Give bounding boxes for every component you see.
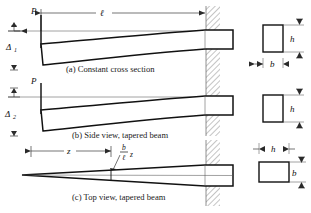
caption-a: (a) Constant cross section	[66, 64, 155, 74]
caption-c: (c) Top view, tapered beam	[72, 192, 166, 202]
deflection-label-a: Δ	[5, 42, 11, 52]
length-label: ℓ	[100, 8, 104, 18]
cross-section-b-height-label: h	[290, 104, 295, 114]
cross-section-a-height-label: h	[290, 34, 295, 44]
cross-section-c-width-label: h	[271, 144, 276, 154]
formula-numerator: b	[122, 143, 126, 152]
load-label-b: P	[30, 76, 37, 86]
cross-section-c-height-label: b	[292, 168, 297, 178]
caption-b: (b) Side view, tapered beam	[72, 130, 168, 140]
deflection-sub-b: 2	[13, 114, 16, 120]
cross-section-b-rect	[263, 95, 283, 122]
deflection-label-b: Δ	[4, 109, 10, 119]
cross-section-c-rect	[259, 162, 289, 182]
formula-multiplier: z	[129, 150, 133, 159]
distance-label-c: z	[66, 146, 71, 156]
load-label-a: P	[30, 6, 37, 16]
engineering-figure: ℓ P Δ 1 (a) Constant cross section	[0, 0, 311, 213]
cross-section-a-width-label: b	[270, 59, 275, 69]
deflection-sub-a: 1	[14, 47, 17, 53]
figure-canvas: ℓ P Δ 1 (a) Constant cross section	[0, 0, 311, 213]
cross-section-a-rect	[263, 25, 283, 52]
